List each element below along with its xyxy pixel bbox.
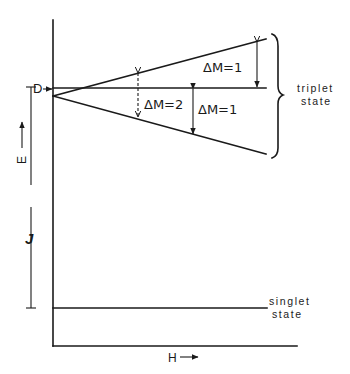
singlet-state-label-line1: singlet (269, 295, 311, 307)
delta-m-1-upper-label: ΔM=1 (203, 60, 242, 75)
j-label: J (25, 230, 34, 247)
delta-m-1-lower-label: ΔM=1 (198, 102, 237, 117)
triplet-state-label-line1: triplet (297, 82, 334, 94)
exchange-gap-bracket: J (25, 87, 36, 308)
energy-axis-label: E (15, 122, 29, 164)
triplet-state-label-line2: state (301, 95, 332, 107)
e-label: E (15, 156, 29, 164)
field-axis-label: H (168, 351, 198, 365)
transition-delta-m-2: ΔM=2 (138, 73, 183, 117)
triplet-brace-icon (272, 34, 283, 158)
zero-field-splitting-marker: D (33, 81, 52, 96)
singlet-state-label-line2: state (272, 308, 303, 320)
d-label: D (33, 81, 42, 96)
delta-m-2-label: ΔM=2 (144, 97, 183, 112)
energy-level-diagram: D J E H ΔM=2 ΔM=1 ΔM=1 triplet state sin… (0, 0, 350, 374)
transition-delta-m-1-lower: ΔM=1 (193, 89, 237, 134)
h-label: H (168, 351, 177, 365)
